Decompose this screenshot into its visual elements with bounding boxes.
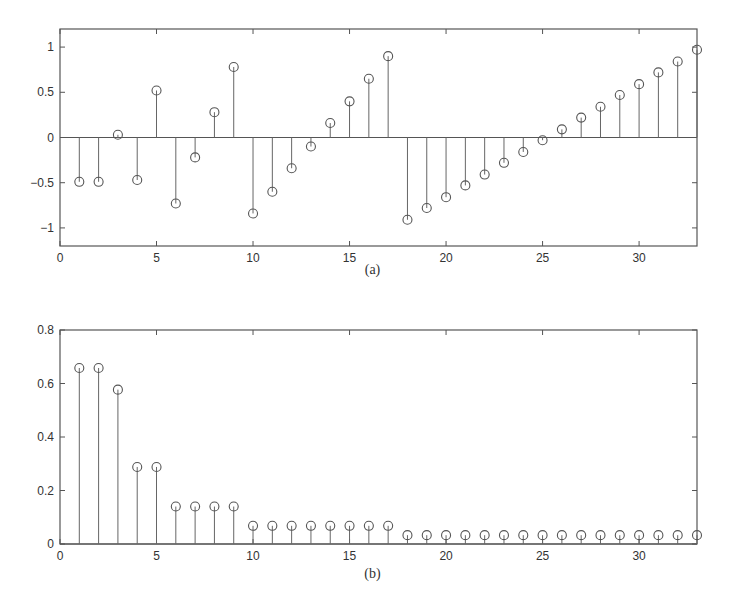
x-tick-label: 10: [246, 251, 260, 265]
x-tick-label: 15: [343, 251, 357, 265]
stem-point: [384, 52, 393, 138]
stem-point: [615, 531, 624, 544]
stem-point: [499, 531, 508, 544]
y-tick-label: 0.5: [37, 85, 54, 99]
stem-point: [596, 102, 605, 137]
stem-point: [577, 113, 586, 137]
stem-point: [326, 521, 335, 544]
stem-point: [229, 62, 238, 137]
stem-point: [326, 119, 335, 138]
stem-point: [519, 531, 528, 544]
x-tick-label: 25: [536, 549, 550, 563]
plot-frame: [60, 330, 697, 544]
stem-point: [133, 138, 142, 185]
stem-point: [519, 138, 528, 157]
stem-point: [557, 125, 566, 138]
stem-point: [480, 138, 489, 180]
x-tick-label: 30: [632, 549, 646, 563]
x-tick-label: 5: [153, 251, 160, 265]
stem-point: [635, 531, 644, 544]
x-tick-label: 5: [153, 549, 160, 563]
stem-point: [249, 138, 258, 218]
stem-point: [673, 531, 682, 544]
stem-point: [596, 531, 605, 544]
y-tick-label: 0: [47, 131, 54, 145]
stem-point: [345, 97, 354, 138]
stem-point: [133, 462, 142, 544]
stem-point: [673, 57, 682, 137]
stem-point: [152, 462, 161, 544]
stem-point: [538, 531, 547, 544]
chart-a: 051015202530−1−0.500.51(a): [30, 29, 701, 278]
stem-point: [345, 521, 354, 544]
stem-point: [306, 521, 315, 544]
stem-point: [654, 68, 663, 138]
y-tick-label: 1: [47, 40, 54, 54]
stem-point: [171, 502, 180, 544]
stem-point: [461, 531, 470, 544]
stem-point: [94, 138, 103, 187]
x-tick-label: 0: [57, 549, 64, 563]
stem-point: [113, 385, 122, 544]
stem-point: [268, 521, 277, 544]
stem-point: [152, 86, 161, 138]
stem-point: [364, 74, 373, 137]
stem-point: [229, 502, 238, 544]
y-tick-label: 0.2: [37, 484, 54, 498]
x-tick-label: 20: [439, 251, 453, 265]
stem-point: [210, 502, 219, 544]
stem-point: [191, 502, 200, 544]
stem-point: [75, 363, 84, 544]
stem-point: [384, 521, 393, 544]
chart-b: 05101520253000.20.40.60.8(b): [37, 323, 701, 582]
x-tick-label: 20: [439, 549, 453, 563]
stem-point: [480, 531, 489, 544]
stem-point: [287, 521, 296, 544]
figure: 051015202530−1−0.500.51(a) 0510152025300…: [0, 0, 732, 613]
stem-point: [171, 138, 180, 209]
stem-point: [191, 138, 200, 162]
stem-point: [442, 531, 451, 544]
y-tick-label: −0.5: [30, 176, 54, 190]
stem-point: [403, 531, 412, 544]
stem-point: [615, 91, 624, 138]
x-tick-label: 25: [536, 251, 550, 265]
stem-point: [75, 138, 84, 187]
stem-point: [287, 138, 296, 173]
x-tick-label: 0: [57, 251, 64, 265]
stem-point: [442, 138, 451, 202]
y-tick-label: −1: [40, 221, 54, 235]
stem-point: [422, 531, 431, 544]
x-tick-label: 15: [343, 549, 357, 563]
stem-point: [635, 80, 644, 138]
chart-caption: (b): [364, 566, 381, 582]
x-tick-label: 30: [632, 251, 646, 265]
stem-point: [654, 531, 663, 544]
y-tick-label: 0: [47, 537, 54, 551]
stem-point: [210, 108, 219, 138]
x-tick-label: 10: [246, 549, 260, 563]
stem-point: [364, 521, 373, 544]
stem-point: [557, 531, 566, 544]
stem-point: [422, 138, 431, 213]
y-tick-label: 0.6: [37, 377, 54, 391]
stem-point: [577, 531, 586, 544]
y-tick-label: 0.4: [37, 430, 54, 444]
stem-point: [94, 363, 103, 544]
stem-point: [499, 138, 508, 168]
stem-point: [306, 138, 315, 152]
stem-point: [268, 138, 277, 197]
stem-point: [249, 521, 258, 544]
stem-point: [461, 138, 470, 190]
stem-point: [403, 138, 412, 225]
chart-caption: (a): [365, 262, 381, 278]
y-tick-label: 0.8: [37, 323, 54, 337]
stem-point: [693, 45, 702, 137]
